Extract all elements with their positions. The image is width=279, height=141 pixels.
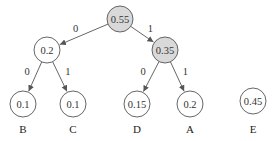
- tree-node-leafB: 0.1B: [10, 91, 36, 135]
- tree-node-n035: 0.35: [152, 37, 178, 63]
- tree-node-leafA: 0.2A: [177, 91, 203, 135]
- tree-node-n02: 0.2: [34, 37, 60, 63]
- tree-node-leafE: 0.45E: [240, 88, 266, 135]
- nodes: 0.550.20.350.1B0.1C0.15D0.2A0.45E: [10, 6, 266, 135]
- node-value: 0.2: [183, 99, 196, 110]
- edge-label: 0: [73, 23, 78, 34]
- leaf-symbol-label: C: [69, 123, 76, 135]
- edge-label: 0: [141, 66, 146, 77]
- huffman-tree-diagram: 010101 0.550.20.350.1B0.1C0.15D0.2A0.45E: [0, 0, 279, 141]
- node-value: 0.2: [40, 45, 53, 56]
- tree-node-leafC: 0.1C: [60, 91, 86, 135]
- node-value: 0.45: [244, 96, 262, 107]
- edge-label: 0: [25, 66, 30, 77]
- leaf-symbol-label: D: [133, 123, 141, 135]
- node-value: 0.15: [128, 99, 146, 110]
- edge-label: 1: [65, 66, 70, 77]
- node-value: 0.35: [156, 45, 174, 56]
- node-value: 0.1: [66, 99, 79, 110]
- edge-label: 1: [183, 66, 188, 77]
- edge-label: 1: [148, 23, 153, 34]
- node-value: 0.1: [16, 99, 29, 110]
- edge-root-n02: [60, 24, 108, 44]
- node-value: 0.55: [111, 14, 129, 25]
- leaf-symbol-label: A: [186, 123, 194, 135]
- tree-node-root: 0.55: [107, 6, 133, 32]
- leaf-symbol-label: B: [19, 123, 26, 135]
- tree-node-leafD: 0.15D: [124, 91, 150, 135]
- leaf-symbol-label: E: [250, 123, 257, 135]
- edge-n02-leafB: [29, 62, 42, 91]
